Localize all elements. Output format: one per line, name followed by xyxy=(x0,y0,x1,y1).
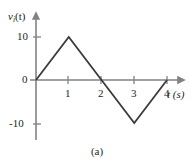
y-axis-label-subscript: i xyxy=(13,15,15,24)
waveform-plot xyxy=(0,0,194,163)
figure-caption: (a) xyxy=(0,146,194,157)
x-tick-label-1: 1 xyxy=(65,88,71,99)
waveform-figure: vi(t) 10 0 -10 1 2 3 4 t (s) (a) xyxy=(0,0,194,163)
y-axis-label: vi(t) xyxy=(8,11,25,22)
y-axis-label-arg: (t) xyxy=(15,10,25,22)
x-tick-label-3: 3 xyxy=(131,88,137,99)
y-tick-label-0: 0 xyxy=(22,74,28,85)
y-tick-label-neg10: -10 xyxy=(9,118,24,129)
y-tick-label-10: 10 xyxy=(17,31,28,42)
x-tick-label-2: 2 xyxy=(98,88,104,99)
x-axis-label: t (s) xyxy=(167,89,184,100)
